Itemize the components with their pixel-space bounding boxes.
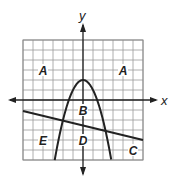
x-axis-right-arrow-icon xyxy=(150,97,158,103)
y-axis-label: y xyxy=(78,8,87,23)
region-label-d: D xyxy=(79,134,88,148)
graph: x y AABCDE xyxy=(0,0,179,178)
x-axis-left-arrow-icon xyxy=(8,97,16,103)
y-axis-up-arrow-icon xyxy=(80,23,86,32)
region-label-a: A xyxy=(118,64,128,78)
region-label-a: A xyxy=(38,64,48,78)
region-label-b: B xyxy=(79,104,88,118)
x-axis-label: x xyxy=(160,93,168,108)
region-label-e: E xyxy=(39,134,48,148)
y-axis-down-arrow-icon xyxy=(80,167,86,176)
region-label-c: C xyxy=(129,144,138,158)
